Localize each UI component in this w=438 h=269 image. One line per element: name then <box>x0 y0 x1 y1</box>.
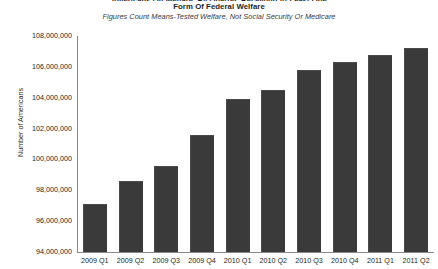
chart-title: Form Of Federal Welfare <box>0 2 438 11</box>
bar <box>83 204 107 252</box>
bar <box>404 48 428 252</box>
y-axis-tick-labels: 94,000,00096,000,00098,000,000100,000,00… <box>0 36 72 253</box>
x-tick-label: 2010 Q3 <box>291 256 327 265</box>
x-tick-label: 2009 Q3 <box>148 256 184 265</box>
y-tick-label: 94,000,000 <box>2 248 72 256</box>
x-tick-label: 2009 Q1 <box>77 256 113 265</box>
bar <box>226 99 250 252</box>
x-tick-label: 2010 Q2 <box>256 256 292 265</box>
y-tick-label: 100,000,000 <box>2 155 72 163</box>
bar <box>297 70 321 252</box>
bar <box>154 166 178 252</box>
y-tick-label: 96,000,000 <box>2 217 72 225</box>
x-tick-label: 2010 Q1 <box>220 256 256 265</box>
plot-area <box>77 36 434 252</box>
y-tick-label: 106,000,000 <box>2 63 72 71</box>
chart-title-block: Americans On Welfare, By Quarter, Receiv… <box>0 0 438 22</box>
bar <box>119 181 143 252</box>
y-tick-label: 108,000,000 <box>2 32 72 40</box>
x-tick-label: 2009 Q2 <box>113 256 149 265</box>
bar <box>190 135 214 252</box>
bar-chart: Americans On Welfare, By Quarter, Receiv… <box>0 0 438 269</box>
bar <box>333 62 357 252</box>
x-axis-line <box>77 252 434 253</box>
x-tick-label: 2010 Q4 <box>327 256 363 265</box>
y-tick-label: 98,000,000 <box>2 186 72 194</box>
chart-title-cropped-line: Americans On Welfare, By Quarter, Receiv… <box>0 0 438 1</box>
x-tick-label: 2009 Q4 <box>184 256 220 265</box>
y-tick-label: 102,000,000 <box>2 125 72 133</box>
bar <box>261 90 285 252</box>
bar-series <box>77 36 434 252</box>
chart-subtitle: Figures Count Means-Tested Welfare, Not … <box>0 12 438 22</box>
x-tick-label: 2011 Q1 <box>363 256 399 265</box>
y-tick-label: 104,000,000 <box>2 94 72 102</box>
x-axis-tick-labels: 2009 Q12009 Q22009 Q32009 Q42010 Q12010 … <box>77 256 434 268</box>
x-tick-label: 2011 Q2 <box>398 256 434 265</box>
bar <box>368 55 392 252</box>
